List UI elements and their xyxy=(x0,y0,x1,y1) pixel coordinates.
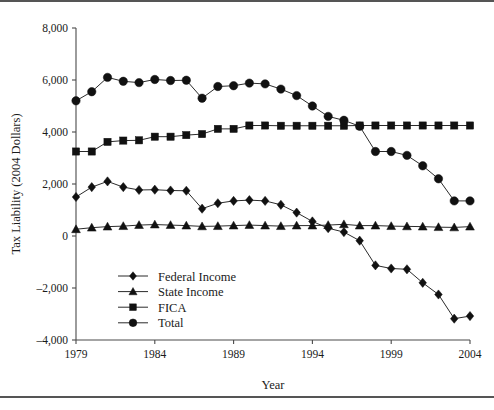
data-point xyxy=(135,185,143,194)
data-point xyxy=(214,82,222,90)
series-total xyxy=(72,73,474,205)
y-tick-label: –4,000 xyxy=(35,334,68,347)
y-tick-label: 2,000 xyxy=(42,178,68,191)
y-tick-label: –2,000 xyxy=(35,282,68,295)
data-point xyxy=(435,122,442,129)
series-state-income xyxy=(72,220,475,233)
data-point xyxy=(450,197,458,205)
data-point xyxy=(292,91,300,99)
data-point xyxy=(261,196,269,205)
series-line xyxy=(76,126,470,152)
data-point xyxy=(104,177,112,186)
y-tick-label: 0 xyxy=(62,230,68,242)
data-point xyxy=(308,102,316,110)
data-point xyxy=(88,148,95,155)
data-point xyxy=(120,137,127,144)
data-point xyxy=(371,147,379,155)
data-point xyxy=(167,186,175,195)
data-point xyxy=(261,80,269,88)
data-point xyxy=(466,311,474,320)
data-point xyxy=(72,97,80,105)
data-point xyxy=(355,122,363,130)
legend-item-fica: FICA xyxy=(118,301,186,315)
data-point xyxy=(246,122,253,129)
data-point xyxy=(214,125,221,132)
data-point xyxy=(403,265,411,274)
y-axis-title: Tax Liability (2004 Dollars) xyxy=(9,113,23,254)
data-point xyxy=(103,73,111,81)
legend-label: Total xyxy=(158,316,184,330)
data-point xyxy=(120,183,128,192)
data-point xyxy=(198,130,205,137)
series-line xyxy=(76,181,470,318)
data-point xyxy=(309,122,316,129)
axes-group: –4,000–2,00002,0004,0006,0008,0001979198… xyxy=(35,22,481,360)
legend-swatch-marker xyxy=(129,319,137,327)
data-point xyxy=(451,122,458,129)
data-point xyxy=(419,278,427,287)
series-group xyxy=(72,73,475,323)
data-point xyxy=(167,133,174,140)
y-tick-label: 6,000 xyxy=(42,74,68,87)
data-point xyxy=(245,221,254,229)
data-point xyxy=(151,185,159,194)
data-point xyxy=(419,122,426,129)
data-point xyxy=(419,162,427,170)
x-tick-label: 1979 xyxy=(65,348,88,360)
data-point xyxy=(151,133,158,140)
y-tick-label: 8,000 xyxy=(42,22,68,35)
data-point xyxy=(183,132,190,139)
data-point xyxy=(340,116,348,124)
legend-label: Federal Income xyxy=(158,270,237,284)
legend-item-total: Total xyxy=(118,316,184,330)
data-point xyxy=(277,85,285,93)
x-tick-label: 1994 xyxy=(301,348,324,360)
data-point xyxy=(262,122,269,129)
data-point xyxy=(387,264,395,273)
data-point xyxy=(72,148,79,155)
figure-container: –4,000–2,00002,0004,0006,0008,0001979198… xyxy=(0,0,494,410)
data-point xyxy=(340,228,348,237)
legend-item-state-income: State Income xyxy=(118,285,224,299)
data-point xyxy=(245,79,253,87)
data-point xyxy=(72,192,80,201)
data-point xyxy=(229,82,237,90)
data-point xyxy=(277,122,284,129)
data-point xyxy=(135,137,142,144)
data-point xyxy=(403,122,410,129)
data-point xyxy=(135,78,143,86)
data-point xyxy=(293,208,301,217)
legend-group: Federal IncomeState IncomeFICATotal xyxy=(118,270,237,331)
data-point xyxy=(466,222,475,230)
legend-label: State Income xyxy=(158,285,224,299)
data-point xyxy=(388,122,395,129)
x-tick-label: 1999 xyxy=(380,348,403,360)
data-point xyxy=(466,122,473,129)
data-point xyxy=(88,88,96,96)
data-point xyxy=(277,200,285,209)
data-point xyxy=(403,151,411,159)
series-fica xyxy=(72,122,473,155)
data-point xyxy=(325,122,332,129)
x-tick-label: 1984 xyxy=(143,348,166,360)
data-point xyxy=(150,220,159,228)
x-tick-label: 2004 xyxy=(459,348,482,360)
data-point xyxy=(387,147,395,155)
data-point xyxy=(214,199,222,208)
data-point xyxy=(340,220,349,228)
data-point xyxy=(166,76,174,84)
data-point xyxy=(372,122,379,129)
data-point xyxy=(88,183,96,192)
data-point xyxy=(466,197,474,205)
line-chart: –4,000–2,00002,0004,0006,0008,0001979198… xyxy=(0,0,494,410)
legend-swatch-marker xyxy=(130,272,137,280)
y-tick-label: 4,000 xyxy=(42,126,68,139)
data-point xyxy=(293,122,300,129)
data-point xyxy=(104,138,111,145)
data-point xyxy=(246,196,254,205)
data-point xyxy=(434,175,442,183)
legend-item-federal-income: Federal Income xyxy=(118,270,237,284)
legend-swatch-marker xyxy=(130,304,137,311)
series-federal-income xyxy=(72,177,474,323)
data-point xyxy=(324,112,332,120)
